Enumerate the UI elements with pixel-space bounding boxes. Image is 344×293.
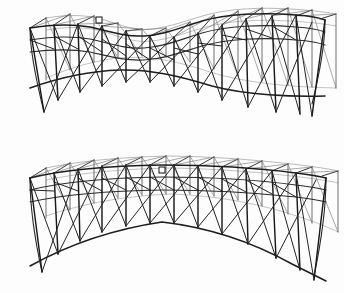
node-marker-icon (159, 167, 165, 173)
figure-top-svg (0, 0, 344, 147)
near-frame-bottom (30, 165, 326, 281)
deck-grid-top (30, 8, 336, 37)
figure-top-wavy-truss (0, 0, 344, 147)
figure-bottom-arched-truss (0, 146, 344, 293)
drawing-canvas (0, 0, 344, 293)
figure-bottom-svg (0, 146, 344, 293)
node-marker-icon (96, 17, 102, 23)
